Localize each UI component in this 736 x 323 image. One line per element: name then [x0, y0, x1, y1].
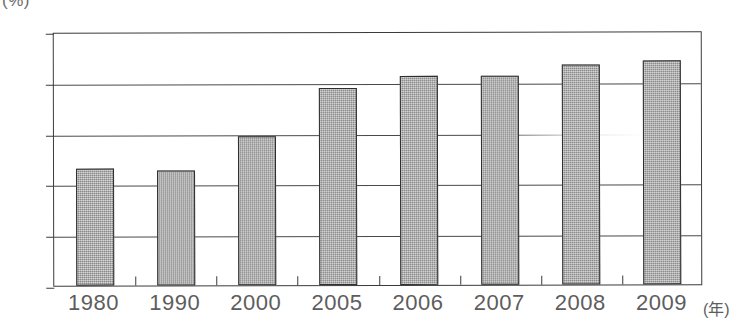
x-tick-mark [622, 275, 623, 284]
x-tick-mark [298, 276, 299, 285]
x-tick-label: 2009 [621, 290, 701, 316]
x-tick-mark [135, 277, 136, 286]
gridline [54, 134, 701, 137]
y-axis-unit-label: (%) [2, 0, 30, 11]
bar [238, 136, 276, 285]
y-tick-mark [46, 84, 54, 85]
y-tick-mark [46, 237, 54, 238]
x-tick-mark [460, 276, 461, 285]
x-tick-marks-group [54, 32, 701, 33]
bar [76, 169, 114, 286]
gridline [54, 185, 701, 187]
bar [481, 75, 519, 284]
x-tick-label: 1990 [135, 290, 215, 316]
x-tick-label: 2007 [459, 290, 539, 316]
y-tick-mark [46, 135, 54, 136]
x-tick-label: 2006 [378, 290, 458, 316]
x-tick-mark [541, 276, 542, 285]
bar [157, 170, 195, 285]
y-tick-mark [46, 34, 54, 35]
bar [562, 65, 600, 285]
x-tick-label: 1980 [54, 290, 134, 316]
bars-group [54, 32, 701, 33]
gridlines-group [54, 32, 701, 33]
y-tick-mark [46, 288, 54, 289]
bar [319, 88, 357, 285]
x-tick-label: 2008 [540, 290, 620, 316]
x-tick-mark [216, 276, 217, 285]
gridline [54, 236, 701, 238]
y-tick-mark [46, 186, 54, 187]
gridline [54, 83, 701, 85]
x-axis-unit-label: (年) [703, 296, 730, 320]
plot-area [53, 31, 703, 286]
x-tick-mark [379, 276, 380, 285]
bar [400, 76, 438, 285]
bar-chart: (%) 01020304050 198019902000200520062007… [0, 0, 736, 323]
bar [643, 61, 681, 285]
x-tick-label: 2000 [216, 290, 296, 316]
x-tick-label: 2005 [297, 290, 377, 316]
